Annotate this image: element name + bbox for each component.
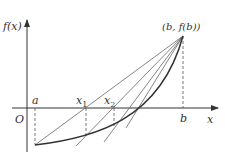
endpoint-label: (b, f(b)) [162,21,201,32]
secant-line-a [35,36,183,145]
secant-line-x3 [126,36,183,128]
secant-line-x2 [104,36,183,142]
b-label: b [180,112,187,125]
origin-label: O [15,113,24,126]
secant-method-diagram: f(x) x O a b x1 x2 (b, f(b)) [0,0,225,167]
y-axis-label: f(x) [2,20,22,33]
x-axis-label: x [207,113,214,126]
x2-label: x2 [104,94,115,109]
x1-label: x1 [76,94,87,109]
a-label: a [32,94,39,107]
secant-line-x1 [76,36,183,146]
